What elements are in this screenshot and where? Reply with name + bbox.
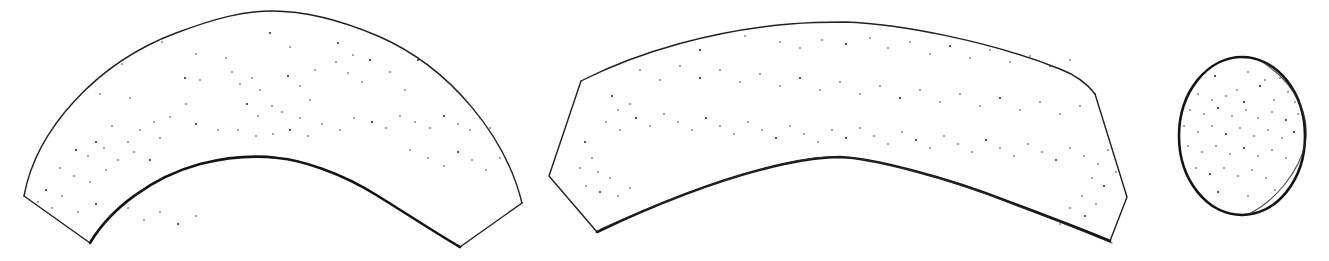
stipple-dot [1223,167,1224,168]
stipple-dot [1189,109,1190,110]
stipple-dot [1197,131,1198,132]
stipple-dot [1115,171,1116,172]
stipple-dot [1225,133,1227,135]
stipple-dot [1294,101,1295,102]
stipple-dot [979,105,980,106]
stipple-dot [1237,175,1238,176]
stipple-dot [1264,79,1265,80]
stipple-dot [479,117,480,118]
stipple-dot [799,77,801,79]
stipple-dot [371,121,373,123]
stipple-dot [584,141,586,143]
stipple-dot [597,171,598,172]
stipple-dot [1217,107,1219,109]
figure-canvas [0,0,1329,261]
stipple-dot [257,115,258,116]
stipple-dot [1195,167,1196,168]
stipple-dot [839,81,840,82]
stipple-dot [1083,155,1084,156]
stipple-dot [719,69,720,70]
stipple-dot [909,41,910,42]
stipple-dot [429,127,430,128]
stipple-dot [619,129,620,130]
stipple-dot [299,117,300,118]
stipple-dot [659,79,660,80]
stipple-dot [489,127,490,128]
stipple-dot [679,65,680,66]
stipple-dot [409,149,410,150]
stipple-dot [289,46,290,47]
stipple-dot [1029,55,1030,56]
stipple-dot [1243,101,1245,103]
stipple-dot [1267,129,1268,130]
stipple-dot [1251,169,1252,170]
stipple-dot [819,89,820,90]
stipple-dot [143,219,144,220]
stipple-dot [1247,71,1248,72]
stipple-dot [929,53,930,54]
stipple-dot [51,207,52,208]
stipple-dot [246,103,248,105]
stipple-dot [77,211,78,212]
stipple-dot [259,89,260,90]
stipple-dot [117,159,118,160]
stipple-dot [617,195,618,196]
stipple-dot [1243,147,1245,149]
stipple-dot [599,191,601,193]
stipple-dot [361,81,362,82]
stipple-dot [969,57,970,58]
stipple-dot [299,85,300,86]
stipple-dot [184,77,186,79]
stipple-dot [1229,153,1230,154]
stipple-dot [739,81,740,82]
stipple-dot [719,125,720,126]
stipple-dot [591,157,592,158]
stipple-dot [799,47,800,48]
stipple-dot [271,105,272,106]
stipple-dot [1239,127,1240,128]
stipple-dot [1059,223,1060,224]
stipple-dot [649,125,650,126]
stipple-dot [1271,149,1272,150]
stipple-dot [1091,177,1092,178]
stipple-dot [217,129,218,130]
stipple-dot [1271,111,1272,112]
stipple-dot [775,137,777,139]
stipple-dot [389,71,390,72]
stipple-dot [1079,105,1080,106]
stipple-dot [321,123,322,124]
stipple-dot [239,83,240,84]
stipple-dot [869,37,870,38]
stipple-dot [1236,89,1237,90]
stipple-dot [287,75,289,77]
stipple-dot [427,157,428,158]
stipple-dot [1183,125,1184,126]
stipple-dot [337,42,339,44]
stipple-dot [133,151,134,152]
stipple-dot [1247,195,1248,196]
stipple-dot [1273,99,1274,100]
shape-crescent-left [24,11,522,247]
stipple-dot [1214,75,1216,77]
stipple-dot [95,203,97,205]
stipple-dot [127,207,128,208]
stipple-dot [1279,77,1280,78]
stipple-dot [585,185,586,186]
stipple-dot [1069,147,1070,148]
stipple-dot [699,77,701,79]
stipple-dot [1081,195,1082,196]
stipple-dot [89,181,90,182]
stipple-dot [195,53,196,54]
stipple-dot [1245,109,1246,110]
stipple-dot [919,89,920,90]
stipple-dot [485,169,486,170]
stipple-dot [929,147,930,148]
stipple-dot [314,69,315,70]
stipple-dot [177,223,179,225]
stipple-dot [733,133,734,134]
stipple-dot [999,147,1000,148]
stipple-dot [237,129,238,130]
stipple-dot [691,129,692,130]
stipple-dot [127,141,128,142]
stipple-dot [1215,145,1216,146]
